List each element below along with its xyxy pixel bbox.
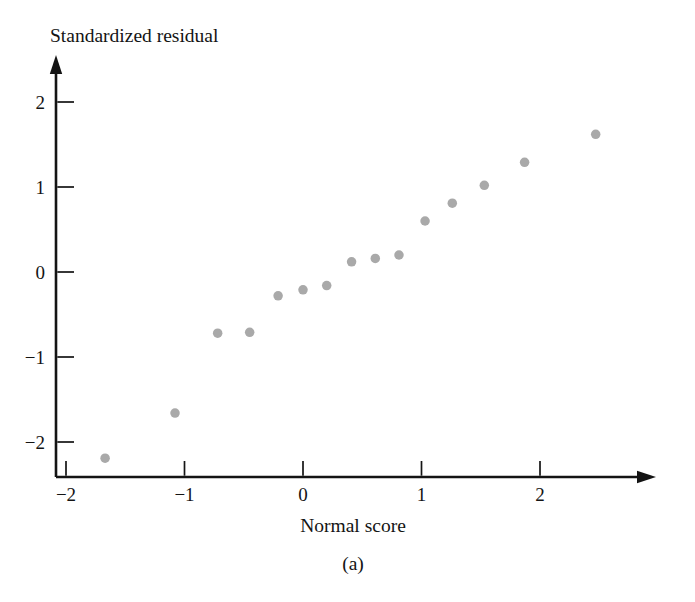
data-point <box>322 281 332 291</box>
data-point <box>591 130 601 140</box>
data-point <box>170 408 180 418</box>
y-axis-tick-label: 0 <box>36 262 46 283</box>
data-points-group <box>100 130 600 463</box>
y-axis-tick-label: −2 <box>25 432 45 453</box>
tick-labels-group: −2−1012−2−1012 <box>25 92 545 506</box>
x-axis-title: Normal score <box>300 515 406 536</box>
data-point <box>298 285 308 295</box>
data-point <box>347 257 357 267</box>
data-point <box>273 291 283 301</box>
x-axis-tick-label: −2 <box>56 484 76 505</box>
figure-caption: (a) <box>342 553 364 575</box>
x-axis-tick-label: 2 <box>535 484 545 505</box>
data-point <box>100 453 110 463</box>
scatter-plot-canvas: −2−1012−2−1012 Standardized residual Nor… <box>0 0 695 602</box>
data-point <box>371 254 381 264</box>
y-axis-tick-label: 2 <box>36 92 46 113</box>
data-point <box>245 328 255 338</box>
data-point <box>213 328 223 338</box>
data-point <box>480 181 490 191</box>
x-axis-arrow-icon <box>637 471 656 483</box>
data-point <box>394 250 404 260</box>
data-point <box>420 216 430 226</box>
normal-probability-plot-figure: −2−1012−2−1012 Standardized residual Nor… <box>0 0 695 602</box>
data-point <box>520 158 530 168</box>
x-axis-tick-label: −1 <box>174 484 194 505</box>
axes-group <box>50 55 656 483</box>
y-axis-arrow-icon <box>50 55 62 74</box>
x-axis-tick-label: 1 <box>417 484 427 505</box>
y-axis-tick-label: 1 <box>36 177 46 198</box>
data-point <box>448 198 458 208</box>
y-axis-tick-label: −1 <box>25 347 45 368</box>
x-axis-tick-label: 0 <box>298 484 308 505</box>
y-axis-title: Standardized residual <box>50 25 219 46</box>
